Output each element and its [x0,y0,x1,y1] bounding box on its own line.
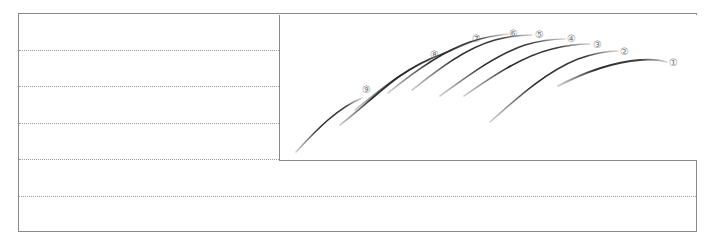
stroke-2 [490,51,618,122]
stroke-7 [355,42,472,110]
stroke-3 [464,44,590,96]
stroke-diagram: ① ② ③ ④ ⑤ ⑥ ⑦ ⑧ ⑨ [0,0,715,247]
stroke-label-9: ⑨ [362,84,371,95]
stroke-1 [558,60,667,86]
stroke-label-2: ② [620,46,629,57]
stroke-9 [296,98,362,152]
stroke-label-3: ③ [593,39,602,50]
stroke-label-8: ⑧ [430,49,439,60]
stroke-label-5: ⑤ [535,29,544,40]
stroke-8 [340,60,430,125]
stroke-label-4: ④ [567,33,576,44]
stroke-label-7: ⑦ [472,33,481,44]
stroke-label-1: ① [669,57,678,68]
stroke-label-6: ⑥ [509,28,518,39]
